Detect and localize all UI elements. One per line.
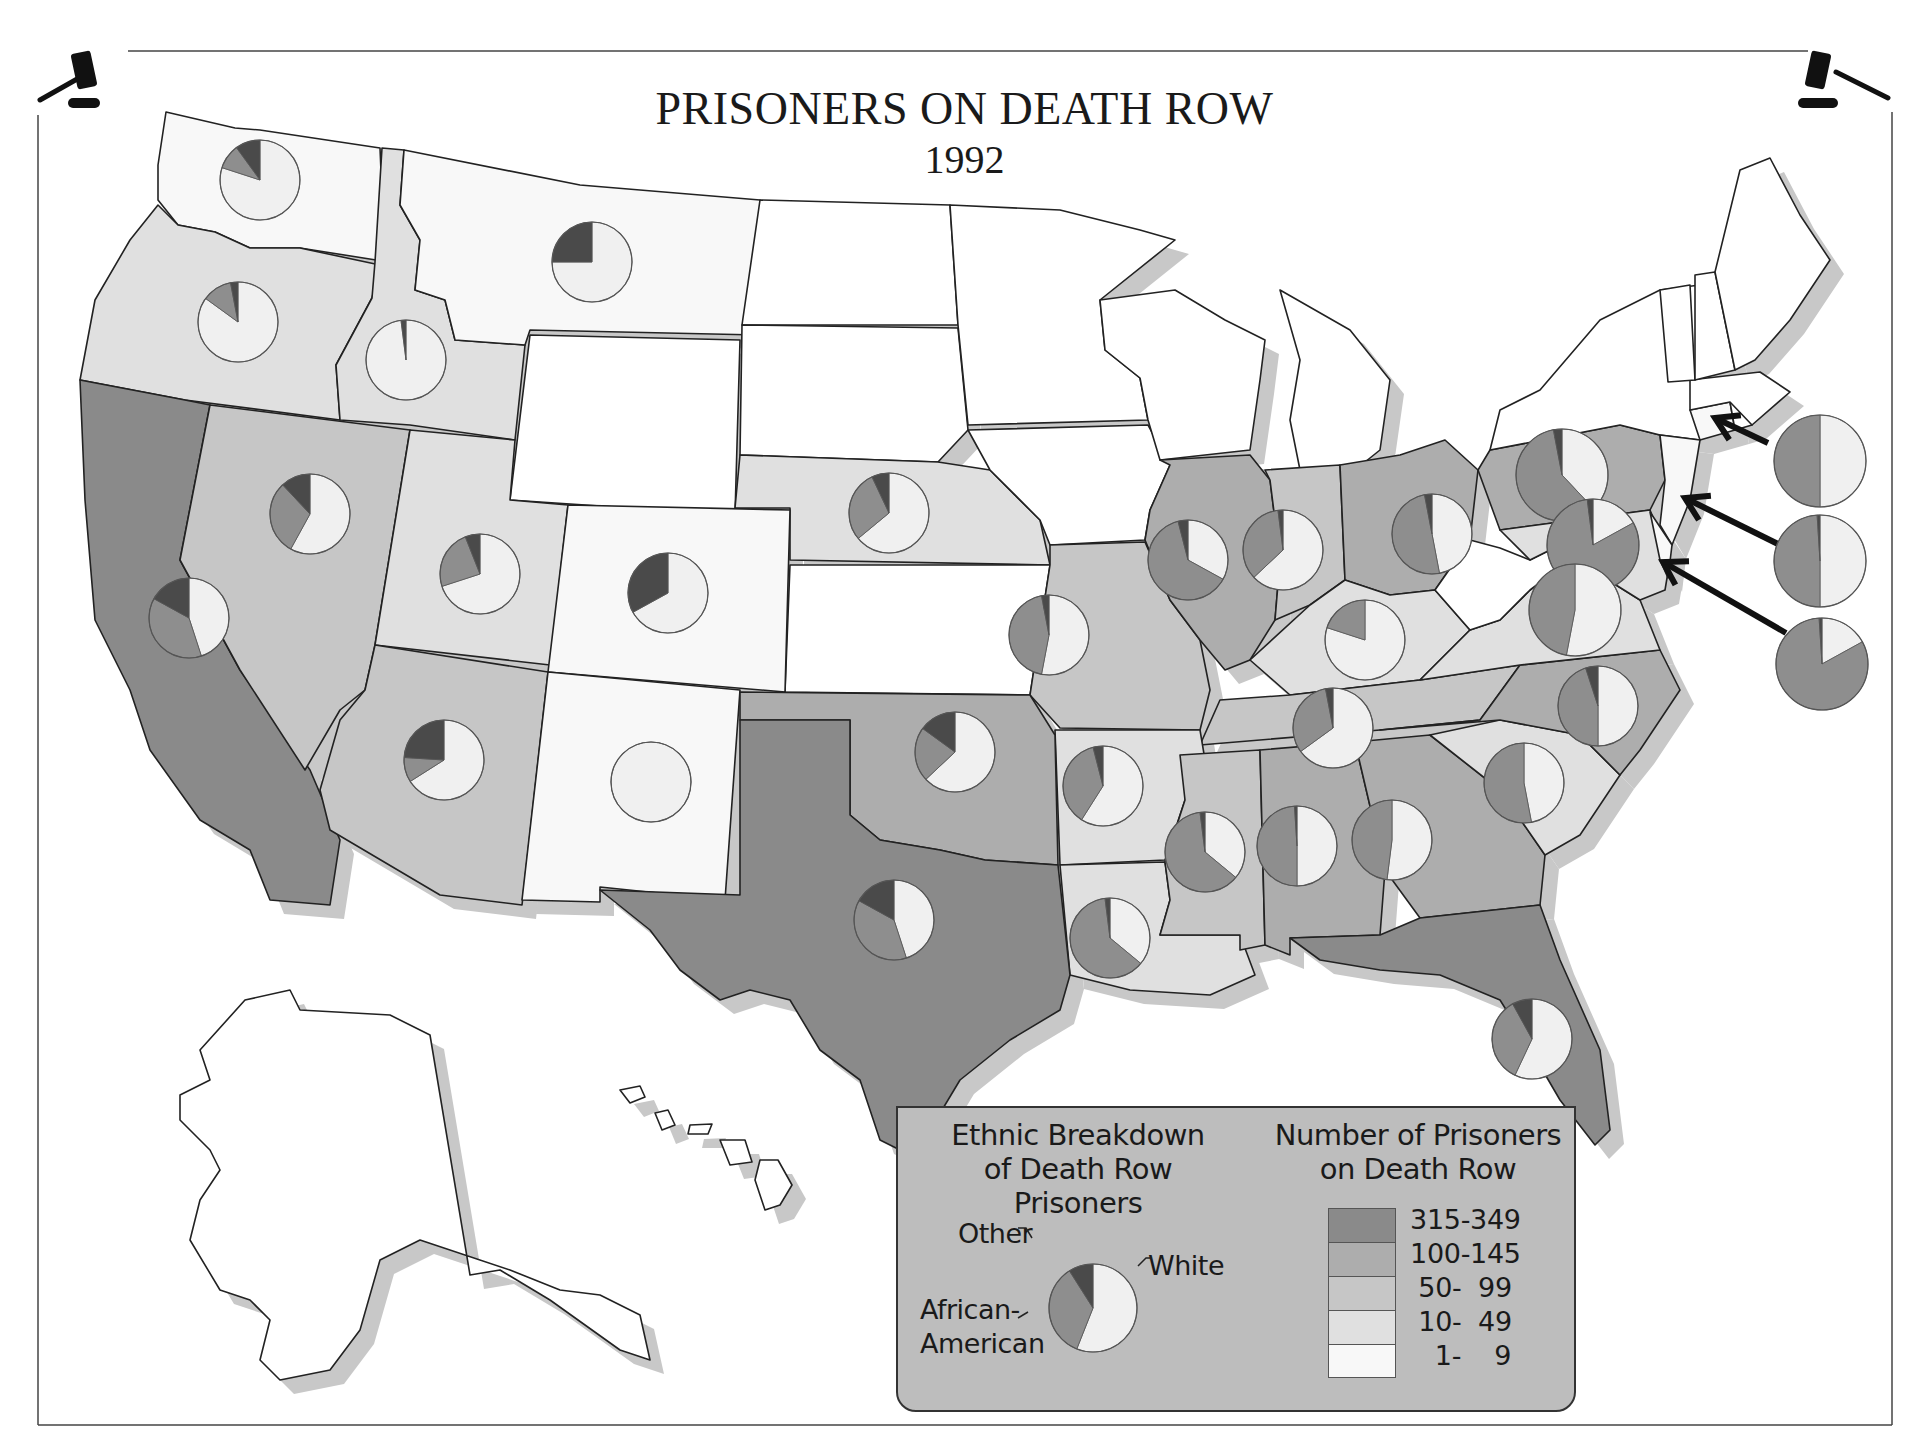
pie-chart-id [366, 320, 446, 400]
pie-chart-nv [270, 474, 350, 554]
legend-leader-lines [1018, 1226, 1098, 1306]
state-me [1715, 158, 1830, 370]
ethnic-heading: Ethnic Breakdown of Death Row Prisoners [928, 1118, 1228, 1220]
pie-chart-ct [1774, 415, 1866, 507]
death-row-map-page: PRISONERS ON DEATH ROW 1992 Ethnic Break… [0, 0, 1929, 1442]
arrow-icon [1663, 561, 1786, 633]
pie-chart-in [1243, 510, 1323, 590]
state-mi [1280, 290, 1390, 470]
legend-swatch [1328, 1310, 1396, 1344]
legend-range-label: 100-145 [1410, 1238, 1521, 1269]
legend-range-label: 315-349 [1410, 1204, 1521, 1235]
state-sd [740, 325, 968, 462]
pie-chart-ne [849, 473, 929, 553]
legend-swatches [1328, 1208, 1380, 1378]
pie-chart-tx [854, 880, 934, 960]
pie-chart-mt [552, 222, 632, 302]
state-ak [180, 990, 650, 1380]
state-wy [510, 335, 740, 515]
legend-range-label: 1- 9 [1410, 1340, 1511, 1371]
count-heading-line1: Number of Prisoners [1268, 1118, 1568, 1152]
pie-chart-ga [1352, 800, 1432, 880]
legend-swatch [1328, 1276, 1396, 1310]
pie-chart-sc [1484, 743, 1564, 823]
pie-chart-az [404, 720, 484, 800]
count-heading-line2: on Death Row [1268, 1152, 1568, 1186]
pie-chart-ca [149, 578, 229, 658]
ethnic-heading-line1: Ethnic Breakdown [928, 1118, 1228, 1152]
state-hi2 [655, 1110, 675, 1130]
pie-chart-ms [1165, 812, 1245, 892]
label-african-american-2: American [920, 1328, 1045, 1359]
legend-swatch [1328, 1242, 1396, 1276]
state-hi3 [688, 1124, 712, 1134]
state-hi1 [620, 1086, 645, 1103]
pie-chart-va [1529, 564, 1621, 656]
pie-chart-nc [1558, 666, 1638, 746]
pie-chart-ar [1063, 746, 1143, 826]
legend-swatch [1328, 1208, 1396, 1242]
pie-chart-mo [1009, 595, 1089, 675]
pie-chart-tn [1293, 688, 1373, 768]
pie-chart-nj [1774, 515, 1866, 607]
state-nd [742, 200, 958, 325]
legend-range-label: 50- 99 [1410, 1272, 1512, 1303]
pie-chart-or [198, 282, 278, 362]
map-title: PRISONERS ON DEATH ROW [0, 82, 1929, 135]
pie-chart-oh [1392, 494, 1472, 574]
pie-chart-fl [1492, 999, 1572, 1079]
pie-chart-la [1070, 898, 1150, 978]
pie-chart-ut [440, 534, 520, 614]
ethnic-heading-line2: of Death Row Prisoners [928, 1152, 1228, 1220]
pie-chart-de [1776, 618, 1868, 710]
label-african-american-1: African- [920, 1294, 1020, 1325]
map-subtitle: 1992 [0, 136, 1929, 183]
pie-chart-il [1148, 520, 1228, 600]
pie-chart-co [628, 553, 708, 633]
legend-swatch [1328, 1344, 1396, 1378]
pie-chart-nm [611, 742, 691, 822]
label-white: White [1148, 1250, 1224, 1281]
count-heading: Number of Prisoners on Death Row [1268, 1118, 1568, 1186]
state-hi4 [720, 1140, 752, 1165]
arrow-icon [1685, 496, 1778, 544]
pie-chart-ky [1325, 600, 1405, 680]
pie-chart-al [1257, 806, 1337, 886]
legend-box: Ethnic Breakdown of Death Row Prisoners … [896, 1106, 1576, 1412]
legend-range-label: 10- 49 [1410, 1306, 1512, 1337]
pie-chart-ok [915, 712, 995, 792]
